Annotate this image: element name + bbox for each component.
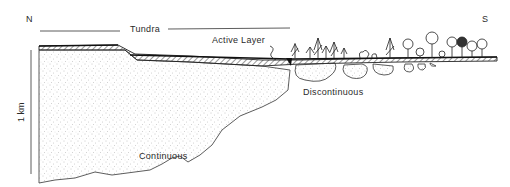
deciduous-trees (403, 32, 487, 58)
south-label: S (482, 14, 488, 24)
discontinuous-label: Discontinuous (303, 87, 363, 97)
trees (291, 32, 487, 58)
discontinuous-patches (295, 63, 436, 81)
continuous-permafrost (39, 50, 290, 183)
permafrost-cross-section (0, 0, 510, 187)
tundra-label: Tundra (130, 24, 160, 34)
north-label: N (26, 14, 33, 24)
conifer-trees (291, 38, 394, 58)
shrubs (359, 50, 377, 58)
active-layer-label: Active Layer (212, 35, 265, 45)
tundra-line-right (168, 28, 290, 29)
scale-label: 1 km (16, 102, 26, 122)
continuous-label: Continuous (139, 151, 188, 161)
